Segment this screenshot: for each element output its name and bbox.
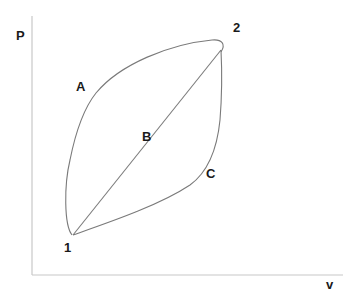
state-1-label: 1 [64,240,71,255]
path-c-label: C [206,166,216,181]
y-axis-label: P [16,28,25,43]
state-2-label: 2 [233,20,240,35]
x-axis-label: v [326,277,334,292]
pv-diagram-svg: P v 1 2 A B C [0,0,358,299]
path-b-label: B [142,129,151,144]
pv-diagram: P v 1 2 A B C [0,0,358,299]
path-a-label: A [76,79,86,94]
